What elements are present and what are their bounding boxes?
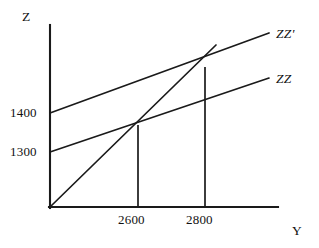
keynesian-cross-figure: Z Y 1400 1300 2600 2800 ZZ' ZZ [0,0,319,248]
y-axis-title: Z [22,10,30,24]
plot-area [0,0,319,248]
x-tick-label-2800: 2800 [186,213,213,226]
y-tick-label-1400: 1400 [10,106,37,119]
curve-label-zz: ZZ [276,72,291,86]
curve-zz [50,78,269,152]
x-axis-title: Y [292,224,302,238]
forty-five-degree-line [50,45,216,207]
y-tick-label-1300: 1300 [10,145,37,158]
x-tick-label-2600: 2600 [118,213,145,226]
curve-label-zz-prime: ZZ' [276,27,295,41]
